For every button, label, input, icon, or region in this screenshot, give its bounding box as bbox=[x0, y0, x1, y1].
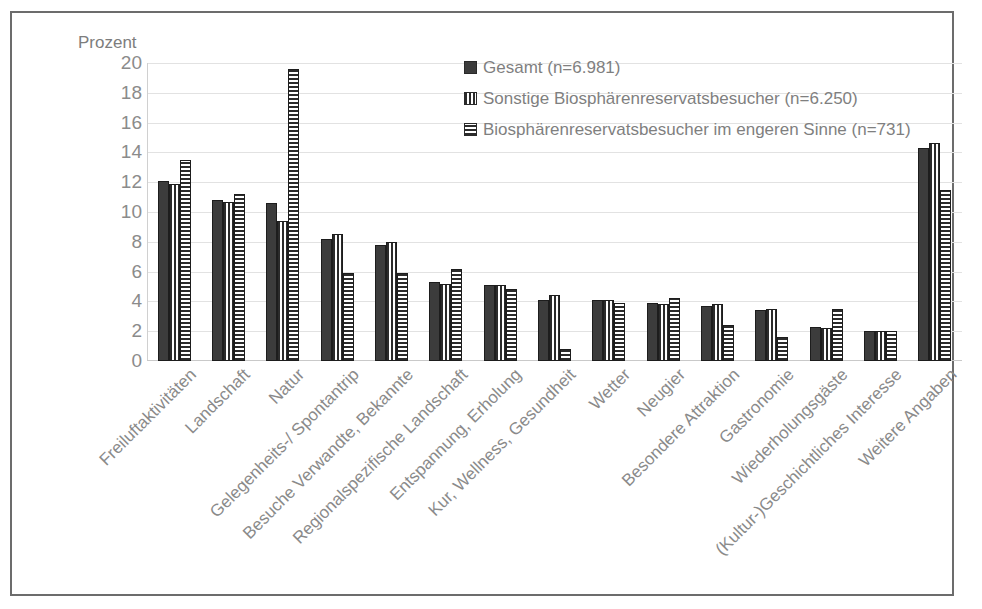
bar[interactable] bbox=[429, 282, 440, 361]
bar-group bbox=[310, 63, 364, 361]
bar[interactable] bbox=[821, 328, 832, 361]
bar-group bbox=[364, 63, 418, 361]
bar[interactable] bbox=[755, 310, 766, 361]
bar[interactable] bbox=[277, 221, 288, 361]
bar[interactable] bbox=[701, 306, 712, 361]
bar[interactable] bbox=[321, 239, 332, 361]
y-tick-label: 16 bbox=[102, 112, 142, 134]
bar[interactable] bbox=[266, 203, 277, 361]
bar[interactable] bbox=[440, 284, 451, 361]
chart-legend: Gesamt (n=6.981)Sonstige Biosphärenreser… bbox=[464, 57, 934, 150]
bar-group bbox=[256, 63, 310, 361]
y-tick-label: 18 bbox=[102, 82, 142, 104]
y-tick-label: 4 bbox=[102, 290, 142, 312]
bar[interactable] bbox=[484, 285, 495, 361]
legend-swatch-icon bbox=[464, 92, 477, 105]
legend-label: Biosphärenreservatsbesucher im engeren S… bbox=[483, 119, 934, 141]
bar[interactable] bbox=[723, 325, 734, 361]
bar[interactable] bbox=[234, 194, 245, 361]
y-tick-label: 12 bbox=[102, 171, 142, 193]
bar[interactable] bbox=[397, 273, 408, 361]
bar[interactable] bbox=[375, 245, 386, 361]
chart-frame: Prozent 20181614121086420 Freiluftaktivi… bbox=[10, 11, 954, 596]
bar[interactable] bbox=[647, 303, 658, 361]
x-axis-label: Weitere Angaben bbox=[855, 365, 961, 471]
legend-item[interactable]: Biosphärenreservatsbesucher im engeren S… bbox=[464, 119, 934, 141]
bar[interactable] bbox=[864, 331, 875, 361]
bar[interactable] bbox=[332, 234, 343, 361]
bar[interactable] bbox=[832, 309, 843, 361]
y-tick-label: 6 bbox=[102, 261, 142, 283]
bar[interactable] bbox=[538, 300, 549, 361]
bar[interactable] bbox=[875, 331, 886, 361]
bar[interactable] bbox=[592, 300, 603, 361]
bar[interactable] bbox=[288, 69, 299, 361]
bar[interactable] bbox=[810, 327, 821, 361]
bar[interactable] bbox=[495, 285, 506, 361]
bar[interactable] bbox=[212, 200, 223, 361]
legend-swatch-icon bbox=[464, 123, 477, 136]
bar[interactable] bbox=[712, 304, 723, 361]
legend-label: Gesamt (n=6.981) bbox=[483, 57, 934, 79]
y-tick-label: 14 bbox=[102, 141, 142, 163]
bar[interactable] bbox=[777, 337, 788, 361]
bar[interactable] bbox=[223, 202, 234, 361]
bar[interactable] bbox=[343, 273, 354, 361]
bar[interactable] bbox=[158, 181, 169, 361]
bar[interactable] bbox=[180, 160, 191, 361]
bar[interactable] bbox=[886, 331, 897, 361]
y-tick-label: 0 bbox=[102, 350, 142, 372]
y-tick-label: 8 bbox=[102, 231, 142, 253]
legend-label: Sonstige Biosphärenreservatsbesucher (n=… bbox=[483, 88, 934, 110]
bar[interactable] bbox=[766, 309, 777, 361]
y-tick-label: 10 bbox=[102, 201, 142, 223]
y-tick-label: 20 bbox=[102, 52, 142, 74]
x-axis-label: Freiluftaktivitäten bbox=[95, 365, 200, 470]
legend-swatch-icon bbox=[464, 61, 477, 74]
bar[interactable] bbox=[669, 298, 680, 361]
x-axis-label: Natur bbox=[265, 365, 309, 409]
bar[interactable] bbox=[560, 349, 571, 361]
bar[interactable] bbox=[918, 148, 929, 361]
x-axis-label: Wetter bbox=[586, 365, 635, 414]
bar[interactable] bbox=[929, 143, 940, 361]
bar[interactable] bbox=[549, 295, 560, 361]
bar[interactable] bbox=[603, 300, 614, 361]
bar[interactable] bbox=[169, 184, 180, 361]
y-tick-label: 2 bbox=[102, 320, 142, 342]
legend-item[interactable]: Sonstige Biosphärenreservatsbesucher (n=… bbox=[464, 88, 934, 110]
x-axis-category-labels: FreiluftaktivitätenLandschaftNaturGelege… bbox=[147, 365, 962, 605]
bar[interactable] bbox=[940, 190, 951, 361]
bar[interactable] bbox=[386, 242, 397, 361]
bar-group bbox=[201, 63, 255, 361]
y-axis-tick-labels: 20181614121086420 bbox=[100, 63, 142, 361]
bar[interactable] bbox=[658, 304, 669, 361]
bar-group bbox=[147, 63, 201, 361]
y-axis-title: Prozent bbox=[78, 33, 137, 53]
bar[interactable] bbox=[614, 303, 625, 361]
bar[interactable] bbox=[451, 269, 462, 361]
legend-item[interactable]: Gesamt (n=6.981) bbox=[464, 57, 934, 79]
bar[interactable] bbox=[506, 289, 517, 361]
